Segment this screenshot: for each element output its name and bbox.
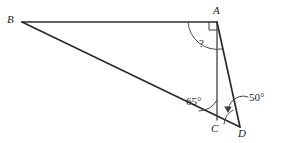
angle-label-C: 65° [186,96,201,107]
vertex-label-B: B [7,14,14,25]
angle-label-D: 50° [249,92,264,103]
geometry-figure: B A C D 65° 50° ? [0,0,284,143]
segment-BD [22,22,240,127]
vertex-label-C: C [211,123,218,134]
right-angle-marker-A [209,22,217,30]
vertex-label-D: D [238,128,246,139]
figure-canvas [0,0,284,143]
vertex-label-A: A [213,5,220,16]
angle-label-unknown: ? [199,38,204,49]
